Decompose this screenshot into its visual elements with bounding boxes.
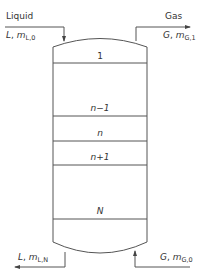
liquid-in-title: Liquid bbox=[6, 12, 33, 21]
gas-out-title: Gas bbox=[165, 12, 182, 21]
liquid-out-label: L, mL,N bbox=[18, 253, 48, 262]
gas-out-label: G, mG,1 bbox=[163, 31, 196, 40]
column-shell bbox=[53, 39, 147, 254]
stage-label-N: N bbox=[53, 207, 147, 216]
stage-label-n-minus-1: n−1 bbox=[53, 104, 147, 113]
gas-in-label: G, mG,0 bbox=[160, 253, 193, 262]
stage-label-n-plus-1: n+1 bbox=[53, 153, 147, 162]
liquid-in-label: L, mL,0 bbox=[6, 31, 35, 40]
stage-label-n: n bbox=[53, 129, 147, 138]
stage-label-1: 1 bbox=[53, 52, 147, 61]
